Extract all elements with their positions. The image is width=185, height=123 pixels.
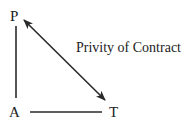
edge-p-t-double-arrow bbox=[24, 20, 105, 100]
privity-of-contract-label: Privity of Contract bbox=[76, 40, 181, 55]
node-a-label: A bbox=[9, 104, 20, 120]
privity-diagram: P A T Privity of Contract bbox=[0, 0, 185, 123]
node-p-label: P bbox=[10, 8, 18, 24]
node-t-label: T bbox=[109, 104, 118, 120]
